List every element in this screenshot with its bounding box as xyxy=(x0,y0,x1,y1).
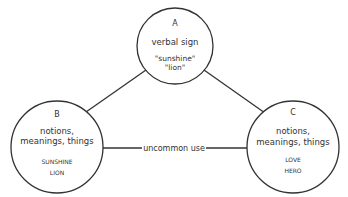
node-a-item: "sunshine" xyxy=(155,54,195,63)
node-b-letter: B xyxy=(54,110,60,119)
node-c: C notions, meanings, things LOVE HERO xyxy=(247,101,339,193)
edge-a-c xyxy=(204,70,265,113)
node-c-title-line: notions, xyxy=(276,126,310,136)
node-a-item: "lion" xyxy=(165,63,185,72)
node-a: A verbal sign "sunshine" "lion" xyxy=(137,8,213,84)
edge-a-b xyxy=(86,70,146,112)
node-b-item: LION xyxy=(50,169,64,176)
node-a-letter: A xyxy=(172,19,178,28)
node-c-title-line: meanings, things xyxy=(256,137,330,147)
node-c-letter: C xyxy=(290,108,296,117)
node-a-title: verbal sign xyxy=(152,37,199,47)
node-b-title-line: notions, xyxy=(40,126,74,136)
semiotic-triangle-diagram: A verbal sign "sunshine" "lion" B notion… xyxy=(0,0,348,197)
node-b: B notions, meanings, things SUNSHINE LIO… xyxy=(11,101,103,193)
node-c-item: HERO xyxy=(284,167,301,174)
node-b-title-line: meanings, things xyxy=(20,136,94,146)
node-b-item: SUNSHINE xyxy=(41,158,72,165)
node-c-item: LOVE xyxy=(285,156,301,163)
edge-b-c-label: uncommon use xyxy=(143,144,205,153)
